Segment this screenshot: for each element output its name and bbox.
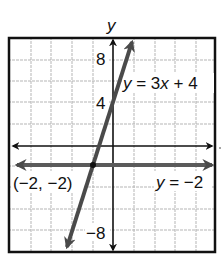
tick-label-neg8: −8 — [86, 224, 105, 243]
eq1-end: + 4 — [169, 74, 198, 93]
eq1-x: x — [159, 74, 169, 93]
intersection-point — [90, 162, 96, 168]
line1-equation-label: y = 3x + 4 — [122, 74, 198, 93]
tick-label-8: 8 — [96, 50, 105, 69]
tick-label-4: 4 — [96, 94, 105, 113]
line2-equation-label: y = −2 — [155, 173, 203, 192]
point-label: (−2, −2) — [13, 174, 73, 193]
eq2-rest: = −2 — [165, 173, 204, 192]
eq1-mid: = 3 — [132, 74, 161, 93]
y-axis-label: y — [106, 16, 117, 35]
line-y-equals-3x-plus-4 — [67, 42, 132, 247]
coordinate-graph: y 8 4 −8 y = 3x + 4 (−2, −2) y = −2 — [0, 0, 222, 257]
graph-frame — [9, 38, 215, 252]
x-axis-label-fragment — [219, 147, 221, 149]
grid-lines — [8, 37, 216, 253]
